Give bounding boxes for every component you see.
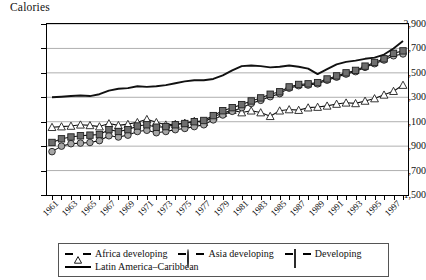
data-point: [115, 128, 121, 134]
data-point: [96, 131, 102, 137]
data-point: [247, 107, 255, 114]
x-axis-tick-mark: [270, 196, 271, 200]
data-point: [106, 126, 112, 132]
series-africa-developing: [48, 81, 407, 130]
data-point: [134, 123, 140, 129]
legend-label: Asia developing: [208, 249, 273, 259]
data-point: [305, 81, 311, 87]
x-axis-tick-mark: [308, 196, 309, 200]
x-axis-tick-mark: [99, 196, 100, 200]
x-axis-tick-mark: [194, 196, 195, 200]
data-point: [381, 56, 387, 62]
data-point: [68, 134, 74, 140]
data-point: [191, 119, 197, 125]
x-axis-tick-mark: [403, 196, 404, 200]
legend-item-africa-developing[interactable]: Africa developing: [65, 249, 167, 259]
legend-label: Africa developing: [95, 249, 167, 259]
data-point: [258, 95, 264, 101]
data-point: [77, 140, 84, 147]
data-point: [105, 120, 113, 127]
data-point: [87, 139, 94, 146]
data-point: [163, 123, 169, 129]
data-point: [267, 91, 273, 97]
x-axis-tick-mark: [327, 196, 328, 200]
series-canvas: [47, 24, 408, 195]
x-axis-tick-mark: [175, 196, 176, 200]
data-point: [362, 63, 368, 69]
series-line: [52, 51, 403, 143]
data-point: [87, 132, 93, 138]
legend-row-2: Latin America–Caribbean: [65, 260, 382, 273]
x-axis-tick-mark: [61, 196, 62, 200]
data-point: [371, 95, 379, 102]
x-axis-tick-mark: [213, 196, 214, 200]
data-point: [343, 70, 349, 76]
circle-icon: [178, 249, 204, 259]
series-latin-america-caribbean: [52, 41, 403, 97]
legend-item-developing[interactable]: Developing: [285, 249, 362, 259]
data-point: [239, 101, 245, 107]
data-point: [58, 143, 65, 150]
x-axis-tick-mark: [156, 196, 157, 200]
y-axis-title: Calories: [10, 1, 50, 13]
data-point: [106, 132, 113, 139]
solid-line-icon: [65, 262, 91, 272]
x-axis-tick-mark: [384, 196, 385, 200]
x-axis-tick-mark: [80, 196, 81, 200]
data-point: [390, 50, 396, 56]
data-point: [68, 140, 75, 147]
data-point: [399, 81, 407, 88]
data-point: [276, 89, 282, 95]
data-point: [58, 136, 64, 142]
data-point: [380, 91, 388, 98]
data-point: [314, 79, 320, 85]
data-point: [172, 122, 178, 128]
square-icon: [285, 249, 311, 259]
data-point: [333, 73, 339, 79]
legend-item-latin-america-caribbean[interactable]: Latin America–Caribbean: [65, 262, 199, 272]
data-point: [352, 67, 358, 73]
data-point: [77, 133, 83, 139]
legend-item-asia-developing[interactable]: Asia developing: [178, 249, 273, 259]
data-point: [125, 126, 131, 132]
x-axis-tick-mark: [251, 196, 252, 200]
data-point: [210, 112, 216, 118]
data-point: [390, 87, 398, 94]
data-point: [229, 104, 235, 110]
chart-figure: Calories 1,5001,7001,9002,1002,3002,5002…: [0, 0, 426, 280]
chart-legend: Africa developing Asia developing Develo…: [58, 243, 389, 277]
x-axis-tick-mark: [365, 196, 366, 200]
series-line: [52, 41, 403, 97]
x-axis-tick-mark: [137, 196, 138, 200]
plot-area: [46, 23, 409, 196]
legend-row-1: Africa developing Asia developing Develo…: [65, 247, 382, 260]
data-point: [96, 137, 103, 144]
triangle-open-icon: [65, 249, 91, 259]
data-point: [266, 112, 274, 119]
data-point: [144, 122, 150, 128]
data-point: [153, 124, 159, 130]
data-point: [49, 139, 55, 145]
data-point: [248, 98, 254, 104]
data-point: [220, 108, 226, 114]
data-point: [182, 120, 188, 126]
legend-label: Latin America–Caribbean: [95, 262, 199, 272]
x-axis-tick-mark: [118, 196, 119, 200]
data-point: [201, 117, 207, 123]
series-developing: [49, 48, 406, 146]
x-axis-tick-mark: [289, 196, 290, 200]
data-point: [286, 84, 292, 90]
data-point: [371, 59, 377, 65]
x-axis-tick-mark: [346, 196, 347, 200]
data-point: [324, 76, 330, 82]
data-point: [49, 148, 56, 155]
data-point: [295, 81, 301, 87]
x-axis-tick-mark: [232, 196, 233, 200]
legend-label: Developing: [315, 249, 362, 259]
data-point: [400, 48, 406, 54]
